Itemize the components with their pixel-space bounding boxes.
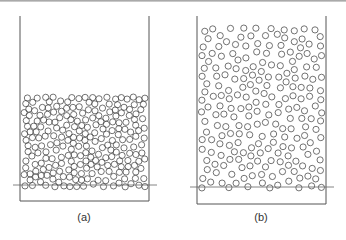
particle [208,179,214,185]
particle [294,104,300,110]
particle [298,84,304,90]
particles-b [198,25,324,191]
particle [96,96,102,102]
particle [317,34,323,40]
particle [23,158,29,164]
particle [282,96,288,102]
particle [287,115,293,121]
particle [319,110,325,116]
particle [243,67,249,73]
particle [308,116,314,122]
particle [286,106,292,112]
particle [222,72,228,78]
particle [299,115,305,121]
particle [213,112,219,118]
particle [253,25,259,31]
particle [313,176,319,182]
particle [205,36,211,42]
particle [78,153,84,159]
particle [77,161,83,167]
particle [223,124,229,130]
particle [53,147,59,153]
particle [203,129,209,135]
particle [202,28,208,34]
particle [131,116,137,122]
particle [259,180,265,186]
particle [79,122,85,128]
particle [121,145,127,151]
particle [116,169,122,175]
particle [317,43,323,49]
particle [45,128,51,134]
particle [255,41,261,47]
panel-b-fluidized-bed [190,16,334,204]
particle [231,114,237,120]
particle [84,124,90,130]
particle [254,121,260,127]
particle [209,137,215,143]
particle [302,132,308,138]
particle [109,137,115,143]
particle [89,148,95,154]
particle [38,124,44,130]
particle [305,151,311,157]
particle [127,136,133,142]
particle [241,175,247,181]
particle [43,155,49,161]
particle [317,167,323,173]
particle [68,146,74,152]
particle [142,156,148,162]
particle [300,163,306,169]
particle [299,36,305,42]
particle [313,148,319,154]
particle [260,59,266,65]
particle [285,162,291,168]
particle [223,39,229,45]
particle [123,119,129,125]
particle [92,138,98,144]
particle [269,173,275,179]
particle [306,41,312,47]
particle [263,101,269,107]
particle [106,101,112,107]
particle [199,185,205,191]
particle [133,151,139,157]
particle [265,74,271,80]
particle [243,94,249,100]
particle [313,126,319,132]
particle [248,153,254,159]
particle [131,162,137,168]
particle [209,50,215,56]
particle [204,157,210,163]
particle [90,181,96,187]
particle [31,108,37,114]
particle [266,112,272,118]
particle [113,96,119,102]
particle [227,156,233,162]
particle [277,159,283,165]
particle [64,105,70,111]
particle [36,135,42,141]
particle [112,107,118,113]
particle [38,160,44,166]
particle [291,168,297,174]
particle [264,82,270,88]
particle [274,31,280,37]
particle [248,145,254,151]
particle [88,154,94,160]
particle [198,109,204,115]
particle [22,183,28,189]
particle [247,82,253,88]
particle [70,134,76,140]
particle [84,176,90,182]
particle [312,27,318,33]
particle [279,51,285,57]
particle [217,141,223,147]
particle [103,131,109,137]
particle [285,153,291,159]
particle [50,94,56,100]
particle [226,185,232,191]
particle [130,94,136,100]
particle [60,174,66,180]
particle [309,183,315,189]
